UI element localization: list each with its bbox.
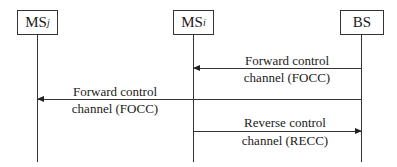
message-3-label: Reverse control: [230, 115, 340, 130]
lifeline-bs: [361, 35, 362, 162]
entity-msj-box: MSj: [17, 10, 58, 35]
entity-msi-box: MSi: [173, 10, 214, 35]
entity-bs-box: BS: [340, 10, 384, 35]
message-1-line2: channel (FOCC): [232, 70, 342, 85]
message-2-line1: Forward control: [60, 84, 170, 99]
message-3-line2: channel (RECC): [230, 133, 340, 148]
message-3-label-2: channel (RECC): [230, 133, 340, 148]
arrowhead-left-icon: [193, 65, 200, 71]
entity-msi-subscript: i: [203, 17, 206, 28]
arrowhead-right-icon: [355, 128, 362, 134]
message-1-label: Forward control: [232, 53, 342, 68]
message-3-arrow: [194, 131, 361, 132]
entity-msj-label: MS: [25, 14, 47, 31]
message-2-label-2: channel (FOCC): [60, 101, 170, 116]
message-1-line1: Forward control: [232, 53, 342, 68]
message-2-label: Forward control: [60, 84, 170, 99]
message-1-arrow: [194, 68, 361, 69]
entity-msi-label: MS: [181, 14, 203, 31]
message-2-line2: channel (FOCC): [60, 101, 170, 116]
entity-bs-label: BS: [353, 14, 371, 31]
message-2-arrow: [38, 99, 361, 100]
entity-msj-subscript: j: [47, 17, 50, 28]
message-1-label-2: channel (FOCC): [232, 70, 342, 85]
arrowhead-left-icon: [37, 96, 44, 102]
message-3-line1: Reverse control: [230, 115, 340, 130]
